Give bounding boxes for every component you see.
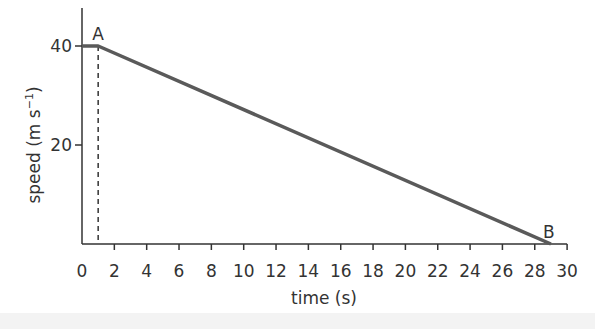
x-tick-label: 28 <box>524 261 546 281</box>
x-tick-label: 22 <box>427 261 449 281</box>
axes <box>82 8 567 244</box>
x-tick-label: 4 <box>141 261 152 281</box>
x-tick-label: 24 <box>459 261 481 281</box>
x-tick-label: 10 <box>233 261 255 281</box>
y-axis-label-sup: −1 <box>23 93 36 109</box>
annotation-b: B <box>543 222 555 242</box>
x-tick-label: 20 <box>395 261 417 281</box>
speed-time-chart: 0246810121416182022242628302040 A B time… <box>0 0 595 329</box>
x-tick-label: 18 <box>362 261 384 281</box>
speed-line <box>82 46 551 244</box>
y-axis-label-close: ) <box>24 86 44 93</box>
x-tick-label: 30 <box>556 261 578 281</box>
x-tick-label: 14 <box>298 261 320 281</box>
x-tick-label: 2 <box>109 261 120 281</box>
x-tick-label: 26 <box>492 261 514 281</box>
x-tick-label: 0 <box>77 261 88 281</box>
bottom-band <box>0 313 595 329</box>
y-tick-label: 20 <box>50 135 72 155</box>
x-tick-label: 16 <box>330 261 352 281</box>
x-tick-label: 6 <box>174 261 185 281</box>
x-tick-label: 12 <box>265 261 287 281</box>
y-axis-label-main: speed (m s <box>24 109 44 203</box>
x-tick-label: 8 <box>206 261 217 281</box>
y-tick-label: 40 <box>50 36 72 56</box>
y-axis-label: speed (m s−1) <box>23 86 44 203</box>
annotation-a: A <box>92 24 104 44</box>
x-axis-label: time (s) <box>291 288 357 308</box>
